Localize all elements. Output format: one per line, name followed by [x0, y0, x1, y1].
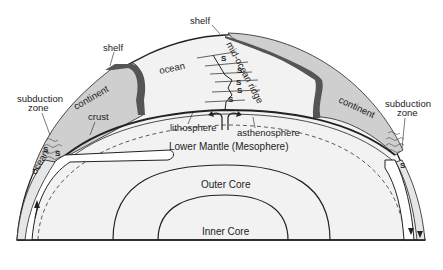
label-lithosphere: lithosphere	[170, 122, 216, 133]
leader-subduction-right	[402, 118, 405, 148]
label-inner-core: Inner Core	[202, 226, 250, 237]
leader-shelf-left	[110, 52, 114, 66]
leader-subduction-left	[42, 113, 50, 135]
diagram-canvas: shelf shelf ocean mid-ocean ridge S S S …	[0, 0, 443, 270]
label-crust: crust	[88, 111, 109, 122]
label-lower-mantle: Lower Mantle (Mesophere)	[169, 141, 289, 152]
ridge-s-4: S	[237, 86, 243, 95]
ridge-s-5: S	[228, 95, 234, 104]
ridge-s-2: S	[237, 66, 243, 75]
ridge-s-1: S	[221, 54, 227, 63]
subduction-right-s-1: S	[400, 161, 406, 170]
label-outer-core: Outer Core	[201, 179, 251, 190]
subduction-left-s-2: S	[55, 149, 61, 158]
label-subduction-right-2: zone	[397, 107, 418, 118]
label-subduction-left-2: zone	[28, 102, 49, 113]
label-shelf-left: shelf	[103, 42, 123, 53]
label-asthenosphere: asthenosphere	[237, 127, 300, 138]
earth-structure-diagram: shelf shelf ocean mid-ocean ridge S S S …	[0, 0, 443, 270]
leader-shelf-top	[212, 25, 220, 34]
label-shelf-top: shelf	[190, 15, 210, 26]
